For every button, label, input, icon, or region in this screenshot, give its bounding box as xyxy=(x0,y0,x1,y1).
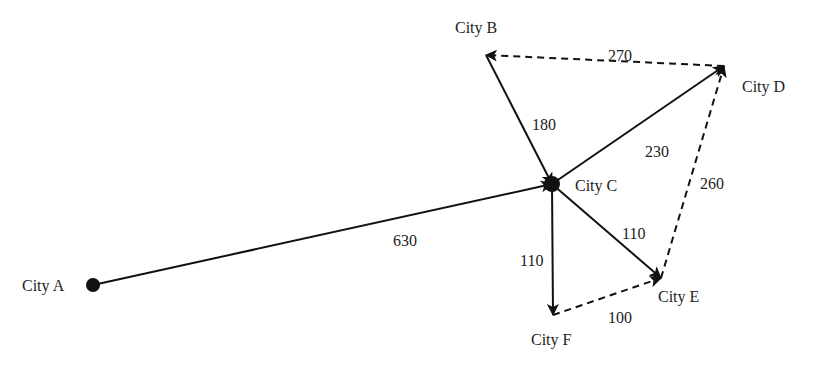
edge-d-b xyxy=(486,55,724,66)
edge-weight-label: 100 xyxy=(608,310,632,326)
edge-weight-label: 260 xyxy=(700,176,724,192)
node-label-b: City B xyxy=(455,20,497,36)
city-network-diagram: 630180230270260110110100City ACity BCity… xyxy=(0,0,821,375)
node-label-a: City A xyxy=(22,278,64,294)
node-dot-c xyxy=(544,176,560,192)
graph-edges xyxy=(0,0,821,375)
edge-f-e xyxy=(553,278,661,315)
node-label-e: City E xyxy=(658,289,699,305)
edge-weight-label: 110 xyxy=(520,253,543,269)
edge-weight-label: 270 xyxy=(608,48,632,64)
node-label-f: City F xyxy=(531,332,571,348)
edge-a-c xyxy=(93,184,552,285)
edge-c-d xyxy=(552,66,724,184)
node-label-c: City C xyxy=(575,178,617,194)
node-dot-a xyxy=(86,278,100,292)
edge-c-f xyxy=(552,184,553,315)
edge-weight-label: 110 xyxy=(622,226,645,242)
edge-weight-label: 230 xyxy=(645,144,669,160)
edge-weight-label: 180 xyxy=(532,117,556,133)
edge-e-d xyxy=(661,66,724,278)
node-label-d: City D xyxy=(742,79,785,95)
edge-weight-label: 630 xyxy=(393,233,417,249)
